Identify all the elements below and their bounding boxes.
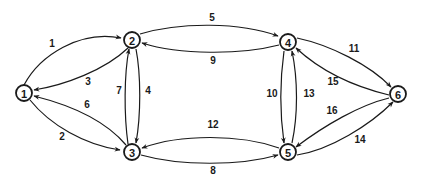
edge-3-2-to-1 — [34, 48, 128, 90]
edge-labels: 1 2 3 4 5 6 7 8 9 10 11 12 13 14 15 16 — [49, 12, 366, 176]
edge-label-6: 6 — [84, 99, 90, 110]
edge-2-1-to-3 — [30, 100, 120, 150]
edge-label-8: 8 — [210, 165, 216, 176]
edge-5-2-to-4 — [140, 25, 278, 36]
edge-13-5-to-4 — [292, 51, 297, 143]
edge-label-16: 16 — [326, 105, 338, 116]
edge-4-2-to-3 — [136, 49, 140, 143]
edge-7-3-to-2 — [125, 49, 129, 144]
edge-label-1: 1 — [49, 38, 55, 49]
edge-1-1-to-2 — [24, 36, 121, 85]
edge-label-7: 7 — [116, 85, 122, 96]
edge-16-6-to-5 — [296, 98, 389, 147]
node-3: 3 — [124, 144, 140, 160]
node-label-2: 2 — [129, 35, 135, 47]
node-4: 4 — [280, 34, 296, 50]
edge-9-4-to-2 — [142, 43, 279, 52]
node-label-5: 5 — [285, 147, 291, 159]
edge-12-5-to-3 — [142, 138, 279, 149]
node-5: 5 — [280, 144, 296, 160]
edge-8-3-to-5 — [141, 155, 278, 163]
edge-label-5: 5 — [209, 12, 215, 23]
edge-label-9: 9 — [210, 55, 216, 66]
node-label-3: 3 — [129, 147, 135, 159]
edge-label-12: 12 — [207, 119, 219, 130]
edge-label-2: 2 — [59, 131, 65, 142]
edge-label-14: 14 — [354, 134, 366, 145]
node-1: 1 — [16, 85, 32, 101]
node-2: 2 — [124, 32, 140, 48]
edge-label-4: 4 — [145, 85, 151, 96]
edge-10-4-to-5 — [281, 51, 284, 143]
edge-label-10: 10 — [266, 88, 278, 99]
edge-label-13: 13 — [303, 88, 315, 99]
edge-14-5-to-6 — [297, 102, 393, 155]
node-label-4: 4 — [285, 37, 292, 49]
nodes: 1 2 3 4 5 6 — [16, 32, 406, 160]
edge-label-3: 3 — [85, 76, 91, 87]
edge-label-11: 11 — [349, 43, 360, 54]
node-6: 6 — [390, 86, 406, 102]
node-label-1: 1 — [21, 88, 27, 100]
edge-label-15: 15 — [327, 76, 339, 87]
node-label-6: 6 — [395, 89, 401, 101]
graph-canvas: 1 2 3 4 5 6 7 8 9 10 11 12 13 14 15 16 1… — [0, 0, 426, 183]
edges — [24, 25, 393, 163]
